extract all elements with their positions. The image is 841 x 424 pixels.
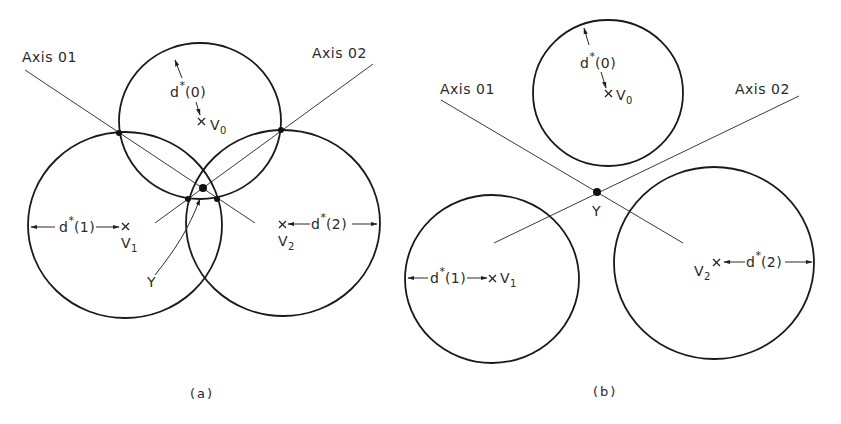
caption-a: (a) — [190, 386, 214, 401]
radius-arrow-0 — [584, 28, 589, 45]
radius-arrow-0 — [175, 60, 182, 78]
intersection-dot — [278, 127, 284, 133]
radius-label-1: d*(1) — [430, 265, 466, 286]
caption-b: (b) — [593, 384, 617, 399]
intersection-dot — [214, 196, 220, 202]
center-cross-v2 — [279, 221, 286, 228]
axis-02-label: Axis 02 — [312, 45, 367, 61]
circle-v2 — [186, 130, 380, 316]
center-label-v2: V2 — [694, 263, 710, 282]
radius-label-0: d*(0) — [580, 50, 616, 71]
panel-a: Axis 01 Axis 02 d*(0) V0 d*(1) — [22, 43, 380, 401]
panel-b: Axis 01 Axis 02 Y d*(0) V0 d*(1) — [405, 20, 814, 399]
intersection-dot — [185, 196, 191, 202]
radius-arrow-0 — [601, 72, 606, 88]
point-y-dot — [593, 188, 601, 196]
point-y-dot — [199, 184, 207, 192]
point-y-label: Y — [591, 203, 601, 219]
radius-label-2: d*(2) — [311, 211, 347, 232]
point-y-label: Y — [146, 274, 156, 290]
circle-v2 — [614, 167, 814, 359]
circle-v1 — [28, 132, 222, 318]
center-cross-v2 — [713, 259, 720, 266]
center-label-v0: V0 — [616, 87, 632, 106]
axis-01-line — [25, 70, 255, 223]
intersection-dot — [116, 130, 122, 136]
radius-label-0: d*(0) — [170, 79, 206, 100]
center-label-v1: V1 — [500, 270, 516, 289]
radius-arrow-0 — [196, 102, 200, 115]
axis-01-label: Axis 01 — [440, 81, 495, 97]
center-label-v1: V1 — [121, 235, 137, 254]
center-cross-v1 — [489, 275, 496, 282]
axis-01-line — [441, 100, 683, 243]
center-cross-v0 — [605, 90, 612, 97]
axis-01-label: Axis 01 — [22, 49, 77, 65]
center-label-v0: V0 — [210, 117, 226, 136]
axis-02-label: Axis 02 — [735, 81, 790, 97]
figure: Axis 01 Axis 02 d*(0) V0 d*(1) — [0, 0, 841, 424]
radius-label-1: d*(1) — [59, 214, 95, 235]
center-cross-v0 — [198, 118, 205, 125]
center-cross-v1 — [122, 223, 129, 230]
y-leader-line — [155, 199, 200, 275]
center-label-v2: V2 — [278, 233, 294, 252]
radius-label-2: d*(2) — [746, 249, 782, 270]
